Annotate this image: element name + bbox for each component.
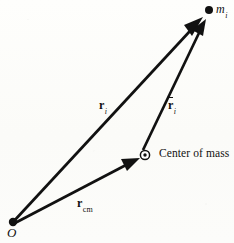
particle-point-marker: [205, 6, 213, 14]
vector-r-i: [14, 17, 203, 221]
center-of-mass-inner-dot: [143, 153, 146, 156]
center-of-mass-diagram: mi O ri ri rcm Center of mass: [0, 0, 234, 243]
vector-r-cm-symbol: r: [77, 196, 82, 210]
vector-r-bar-i-subscript: i: [174, 107, 176, 116]
vector-r-bar-i-overbar-group: r: [168, 99, 173, 111]
vector-r-i-shaft: [14, 31, 190, 221]
vector-r-cm: [15, 158, 140, 223]
particle-label: mi: [216, 3, 227, 18]
vector-r-i-label: ri: [99, 99, 107, 114]
vector-r-i-symbol: r: [99, 98, 104, 112]
vector-r-cm-arrowhead: [121, 158, 140, 171]
vector-r-cm-subscript: cm: [83, 205, 93, 214]
center-of-mass-marker: [140, 150, 149, 159]
vector-r-cm-label: rcm: [77, 197, 92, 212]
vector-r-cm-shaft: [15, 165, 126, 223]
particle-symbol: m: [216, 2, 225, 16]
vector-r-bar-i-symbol: r: [168, 98, 173, 112]
origin-label: O: [7, 226, 16, 239]
vector-r-i-subscript: i: [105, 107, 107, 116]
center-of-mass-label: Center of mass: [159, 148, 229, 160]
overbar-icon: [168, 97, 173, 98]
vector-r-bar-i: [143, 19, 206, 150]
vector-diagram-canvas: [0, 0, 234, 243]
vector-r-bar-i-label: ri: [168, 99, 176, 114]
